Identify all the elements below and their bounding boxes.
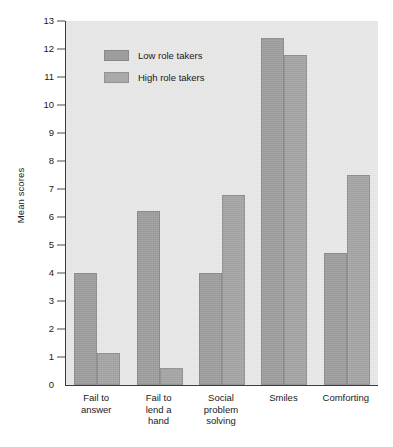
x-axis-label-group-4: Smiles: [252, 392, 314, 404]
legend-swatch-icon-low: [104, 50, 129, 61]
bar-chart: Mean scores 012345678910111213 Low role …: [0, 0, 393, 447]
legend-item-high-role-takers: High role takers: [104, 71, 205, 84]
legend-item-low-role-takers: Low role takers: [104, 49, 205, 62]
y-axis-tick-mark: [57, 21, 65, 22]
y-axis-tick-label: 10: [43, 100, 54, 110]
bar-high-role-takers-group-1: [97, 353, 120, 385]
x-axis-label-line: Smiles: [252, 392, 314, 404]
legend-label-high: High role takers: [138, 73, 205, 83]
y-axis-tick-label: 13: [43, 16, 54, 26]
y-axis-tick-labels: 012345678910111213: [32, 0, 54, 447]
y-axis-tick-mark: [57, 133, 65, 134]
y-axis-tick-label: 9: [49, 128, 54, 138]
bar-low-role-takers-group-3: [199, 273, 222, 385]
x-axis-label-group-5: Comforting: [315, 392, 377, 404]
x-axis-label-line: answer: [65, 404, 127, 416]
y-axis-tick-mark: [57, 245, 65, 246]
chart-legend: Low role takers High role takers: [104, 49, 205, 93]
y-axis-title: Mean scores: [10, 0, 32, 390]
x-axis-label-line: Fail to: [65, 392, 127, 404]
x-axis-label-line: Social: [190, 392, 252, 404]
y-axis-tick-mark: [57, 189, 65, 190]
y-axis-tick-label: 7: [49, 184, 54, 194]
bar-low-role-takers-group-5: [324, 253, 347, 385]
bar-high-role-takers-group-5: [347, 175, 370, 385]
x-axis-label-group-1: Fail toanswer: [65, 392, 127, 415]
x-axis-label-group-3: Socialproblemsolving: [190, 392, 252, 427]
legend-swatch-icon-high: [104, 72, 129, 83]
bar-high-role-takers-group-2: [160, 368, 183, 385]
x-axis-label-line: Fail to: [127, 392, 189, 404]
y-axis-tick-mark: [57, 301, 65, 302]
x-axis-label-line: Comforting: [315, 392, 377, 404]
y-axis-tick-mark: [57, 161, 65, 162]
bar-high-role-takers-group-4: [284, 55, 307, 385]
bar-low-role-takers-group-1: [74, 273, 97, 385]
y-axis-tick-mark: [57, 105, 65, 106]
y-axis-tick-label: 6: [49, 212, 54, 222]
x-axis-category-labels: Fail toanswerFail tolend ahandSocialprob…: [65, 392, 377, 447]
y-axis-title-text: Mean scores: [16, 167, 27, 222]
bar-low-role-takers-group-4: [261, 38, 284, 385]
legend-label-low: Low role takers: [138, 51, 202, 61]
x-axis-label-group-2: Fail tolend ahand: [127, 392, 189, 427]
bar-high-role-takers-group-3: [222, 195, 245, 385]
y-axis-tick-label: 8: [49, 156, 54, 166]
x-axis-label-line: hand: [127, 415, 189, 427]
y-axis-tick-mark: [57, 329, 65, 330]
x-axis-label-line: problem: [190, 404, 252, 416]
x-axis-label-line: lend a: [127, 404, 189, 416]
y-axis-tick-label: 3: [49, 296, 54, 306]
bar-low-role-takers-group-2: [137, 211, 160, 385]
y-axis-tick-label: 4: [49, 268, 54, 278]
y-axis-tick-label: 1: [49, 352, 54, 362]
y-axis-tick-label: 12: [43, 44, 54, 54]
y-axis-tick-mark: [57, 273, 65, 274]
y-axis-tick-label: 2: [49, 324, 54, 334]
y-axis-tick-mark: [57, 77, 65, 78]
y-axis-tick-mark: [57, 357, 65, 358]
plot-area: Low role takers High role takers: [65, 21, 378, 386]
x-axis-label-line: solving: [190, 415, 252, 427]
y-axis-tick-mark: [57, 49, 65, 50]
y-axis-tick-label: 0: [49, 380, 54, 390]
y-axis-tick-label: 5: [49, 240, 54, 250]
y-axis-tick-label: 11: [44, 72, 54, 82]
y-axis-tick-mark: [57, 217, 65, 218]
